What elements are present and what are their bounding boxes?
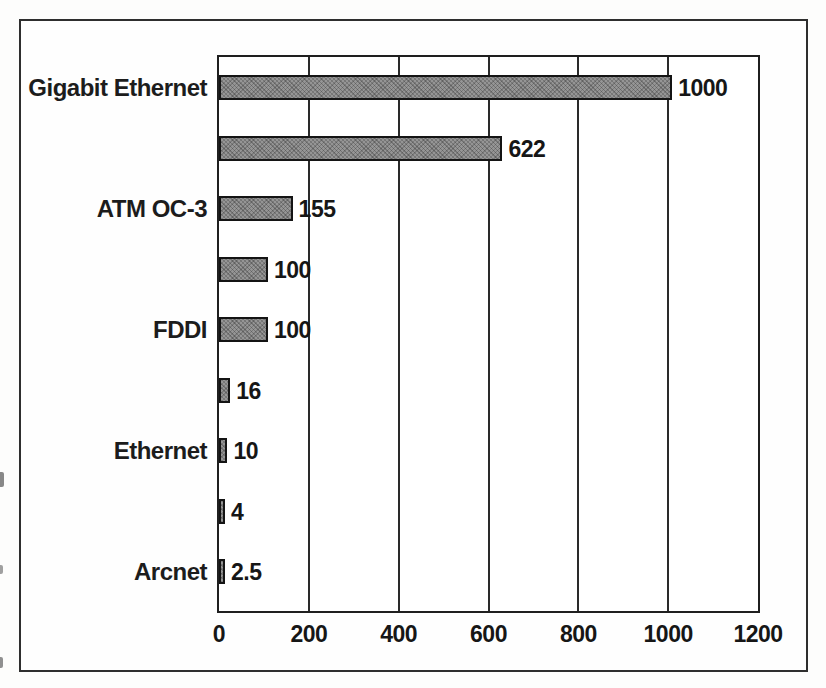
scanned-figure-page: Gigabit Ethernet1000622ATM OC-3155100FDD…	[0, 0, 826, 688]
category-label: ATM OC-3	[20, 196, 207, 221]
bar-row-4	[219, 257, 268, 282]
x-tick-label-1000: 1000	[623, 621, 713, 648]
value-label: 16	[236, 378, 261, 403]
x-tick-label-200: 200	[264, 621, 354, 648]
bar-row-8	[219, 499, 225, 524]
x-tick-label-0: 0	[174, 621, 264, 648]
gridline-x-800	[577, 57, 579, 611]
scan-artifact	[0, 565, 3, 574]
bar-fddi	[219, 317, 268, 342]
x-tick-label-400: 400	[354, 621, 444, 648]
bar-gigabit-ethernet	[219, 75, 672, 100]
x-tick-label-1200: 1200	[713, 621, 803, 648]
value-label: 4	[231, 499, 243, 524]
value-label: 2.5	[231, 559, 261, 584]
value-label: 1000	[678, 75, 727, 100]
value-label: 622	[508, 136, 545, 161]
bar-row-6	[219, 378, 230, 403]
value-label: 100	[274, 317, 311, 342]
x-tick-label-600: 600	[444, 621, 534, 648]
gridline-x-1000	[667, 57, 669, 611]
value-label: 10	[233, 438, 258, 463]
bar-arcnet	[219, 559, 225, 584]
bar-atm-oc-3	[219, 196, 293, 221]
scan-artifact	[0, 657, 3, 668]
bar-row-2	[219, 136, 502, 161]
bar-ethernet	[219, 438, 227, 463]
value-label: 155	[299, 196, 336, 221]
x-tick-label-800: 800	[533, 621, 623, 648]
scan-artifact	[0, 472, 4, 487]
category-label: Arcnet	[20, 559, 207, 584]
value-label: 100	[274, 257, 311, 282]
category-label: FDDI	[20, 317, 207, 342]
category-label: Gigabit Ethernet	[20, 75, 207, 100]
category-label: Ethernet	[20, 438, 207, 463]
